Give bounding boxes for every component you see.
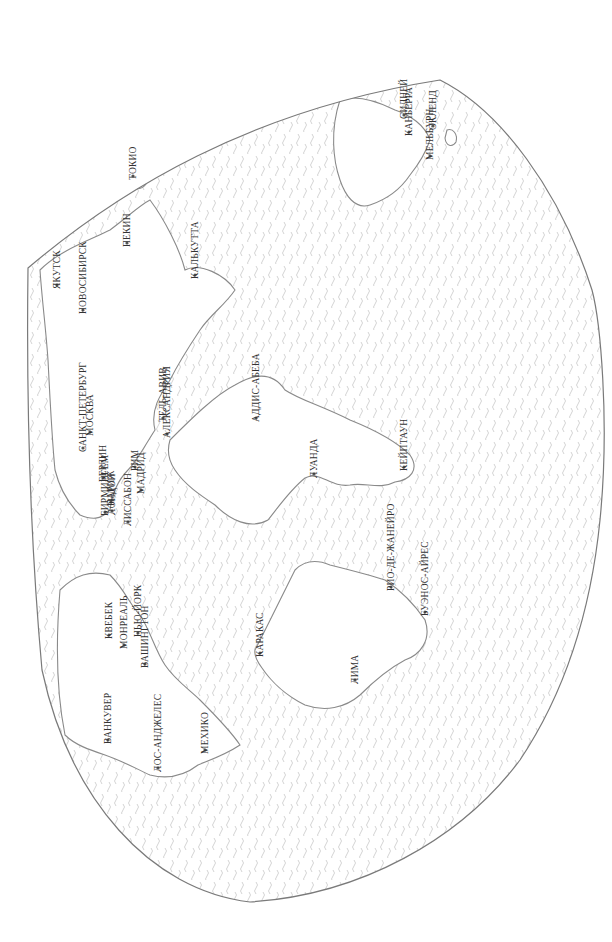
ocean — [0, 0, 612, 942]
city-label: БУЭНОС-АЙРЕС — [419, 541, 430, 616]
city-marker-los-angeles: ЛОС-АНДЖЕЛЕС — [153, 694, 163, 772]
city-marker-canberra: КАНБЕРРА — [404, 87, 414, 136]
world-map: ЯКУТСКНОВОСИБИРСКТОКИОПЕКИНКАЛЬКУТТАСАНК… — [0, 0, 612, 942]
city-label: КВЕБЕК — [104, 601, 114, 639]
city-marker-vancouver: ВАНКУВЕР — [103, 693, 113, 744]
city-label: НОВОСИБИРСК — [78, 241, 88, 314]
city-marker-kolkata: КАЛЬКУТТА — [190, 221, 200, 279]
city-label: КАНБЕРРА — [404, 87, 414, 136]
city-label: КАЛЬКУТТА — [190, 221, 200, 279]
city-label: БИРМИНГЕМ — [100, 454, 110, 516]
city-marker-madrid: МАДРИД — [136, 452, 146, 494]
city-marker-washington: ВАШИНГТОН — [140, 605, 150, 668]
city-marker-luanda: ЛУАНДА — [309, 438, 319, 478]
city-marker-addis-ababa: АДДИС-АБЕБА — [251, 353, 261, 422]
city-label: ТОКИО — [128, 146, 138, 180]
city-label: КЕЙПТАУН — [398, 419, 409, 471]
city-marker-buenos-aires: БУЭНОС-АЙРЕС — [419, 541, 430, 616]
city-label: МОНРЕАЛЬ — [119, 595, 129, 649]
city-marker-yakutsk: ЯКУТСК — [52, 250, 62, 289]
city-label: ОКЛЕНД — [428, 90, 438, 130]
city-marker-mexico-city: МЕХИКО — [200, 712, 210, 754]
city-label: МЕХИКО — [200, 712, 210, 754]
city-label: АЛЕКСАНДРИЯ — [162, 366, 172, 438]
city-marker-auckland: ОКЛЕНД — [428, 90, 438, 130]
city-marker-cape-town: КЕЙПТАУН — [398, 419, 409, 471]
city-marker-rio-de-janeiro: РИО-ДЕ-ЖАНЕЙРО — [385, 503, 396, 591]
city-marker-lisbon: ЛИССАБОН — [123, 473, 133, 526]
city-marker-caracas: КАРАКАС — [255, 612, 265, 657]
city-marker-quebec: КВЕБЕК — [104, 601, 114, 639]
city-label: ВАНКУВЕР — [103, 693, 113, 744]
city-label: РИО-ДЕ-ЖАНЕЙРО — [385, 503, 396, 591]
city-marker-montreal: МОНРЕАЛЬ — [119, 595, 129, 649]
city-marker-novosibirsk: НОВОСИБИРСК — [78, 241, 88, 314]
city-label: ЛИССАБОН — [123, 473, 133, 526]
city-label: ЛУАНДА — [309, 438, 319, 478]
city-label: ЯКУТСК — [52, 250, 62, 289]
city-label: МОСКВА — [85, 394, 95, 436]
city-marker-beijing: ПЕКИН — [122, 213, 132, 247]
city-label: АДДИС-АБЕБА — [251, 353, 261, 422]
city-label: ВАШИНГТОН — [140, 605, 150, 668]
city-marker-alexandria: АЛЕКСАНДРИЯ — [162, 366, 172, 438]
city-marker-lima: ЛИМА — [350, 655, 360, 684]
city-marker-moscow: МОСКВА — [85, 394, 95, 436]
city-label: ПЕКИН — [122, 213, 132, 247]
city-label: МАДРИД — [136, 452, 146, 494]
city-marker-birmingham: БИРМИНГЕМ — [100, 454, 110, 516]
city-label: ЛОС-АНДЖЕЛЕС — [153, 694, 163, 772]
city-label: КАРАКАС — [255, 612, 265, 657]
city-label: ЛИМА — [350, 655, 360, 684]
landmass-new-zealand — [445, 130, 456, 146]
city-marker-tokyo: ТОКИО — [128, 146, 138, 180]
